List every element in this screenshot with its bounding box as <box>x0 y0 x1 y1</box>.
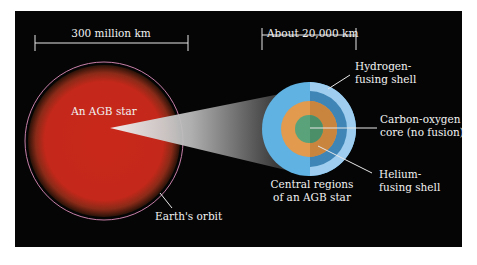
helium-label-line2: fusing shell <box>379 181 441 193</box>
left-scale-label: 300 million km <box>71 27 151 39</box>
core-caption-line2: of an AGB star <box>273 191 352 203</box>
star-label: An AGB star <box>70 105 138 117</box>
helium-label-line1: Helium- <box>379 168 422 180</box>
hydrogen-label-line2: fusing shell <box>355 73 417 85</box>
core-label-line1: Carbon-oxygen <box>380 113 461 125</box>
right-scale-label: About 20,000 km <box>266 27 358 39</box>
orbit-label: Earth's orbit <box>155 210 223 222</box>
orbit-pointer-line <box>160 193 172 208</box>
agb-star <box>28 65 180 217</box>
agb-star-diagram: 300 million km An AGB star Earth's orbit… <box>0 0 477 265</box>
hydrogen-pointer-line <box>328 75 350 89</box>
hydrogen-label-line1: Hydrogen- <box>355 60 412 72</box>
core-caption-line1: Central regions <box>271 178 354 190</box>
core-label-line2: core (no fusion) <box>380 126 464 138</box>
core-cross-section <box>262 82 356 176</box>
